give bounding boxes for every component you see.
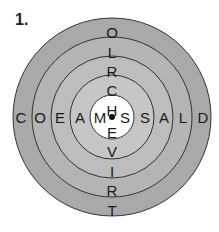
horizontal-letter: A [159,109,169,126]
vertical-letter: C [107,82,118,99]
vertical-letter: R [107,63,118,80]
vertical-letter: V [107,143,117,160]
concentric-word-target: OLRCHEVIRT COEAMSSALD [0,0,219,232]
vertical-letter: L [108,44,116,61]
horizontal-letter: S [140,109,150,126]
horizontal-letter: E [55,109,65,126]
vertical-letter: R [107,182,118,199]
horizontal-letter: C [16,109,27,126]
horizontal-letter: D [198,109,209,126]
vertical-letter: T [107,202,116,219]
vertical-letter: I [110,163,114,180]
vertical-letter: E [107,124,117,141]
center-dot-icon [109,114,115,120]
vertical-letter: O [106,24,118,41]
horizontal-letter: L [179,109,187,126]
horizontal-letter: M [94,109,107,126]
horizontal-letter: S [120,109,130,126]
horizontal-letter: O [34,109,46,126]
horizontal-letter: A [75,109,85,126]
